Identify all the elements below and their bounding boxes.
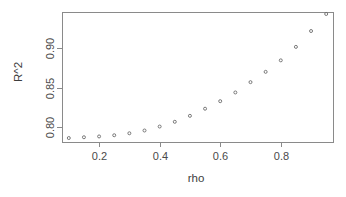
x-axis-tick-label: 0.6: [213, 150, 228, 162]
data-point: [264, 70, 267, 73]
data-point: [113, 134, 116, 137]
x-axis-tick-label: 0.4: [153, 150, 168, 162]
data-point: [249, 81, 252, 84]
data-point: [234, 91, 237, 94]
data-point-series: [67, 12, 327, 139]
data-point: [188, 114, 191, 117]
y-axis-title: R^2: [12, 62, 24, 82]
data-point: [128, 132, 131, 135]
x-axis-tick-label: 0.8: [274, 150, 289, 162]
data-point: [219, 100, 222, 103]
data-point: [143, 129, 146, 132]
data-point: [67, 137, 70, 140]
data-point: [98, 135, 101, 138]
scatter-plot-figure: 0.800.850.90 0.20.40.60.8 rho R^2: [0, 0, 346, 197]
data-point: [310, 30, 313, 33]
y-axis-tick-label: 0.90: [44, 38, 56, 59]
data-point: [279, 59, 282, 62]
data-point: [158, 125, 161, 128]
y-axis: 0.800.850.90: [44, 38, 62, 138]
data-point: [294, 45, 297, 48]
data-point: [173, 120, 176, 123]
plot-frame-box: [63, 13, 334, 143]
x-axis-title: rho: [188, 172, 205, 184]
data-point: [325, 12, 328, 15]
x-axis-tick-label: 0.2: [92, 150, 107, 162]
y-axis-tick-label: 0.85: [44, 78, 56, 99]
plot-canvas: 0.800.850.90 0.20.40.60.8 rho R^2: [0, 0, 346, 197]
data-point: [204, 107, 207, 110]
x-axis: 0.20.40.60.8: [92, 142, 289, 162]
y-axis-tick-label: 0.80: [44, 117, 56, 138]
data-point: [82, 136, 85, 139]
